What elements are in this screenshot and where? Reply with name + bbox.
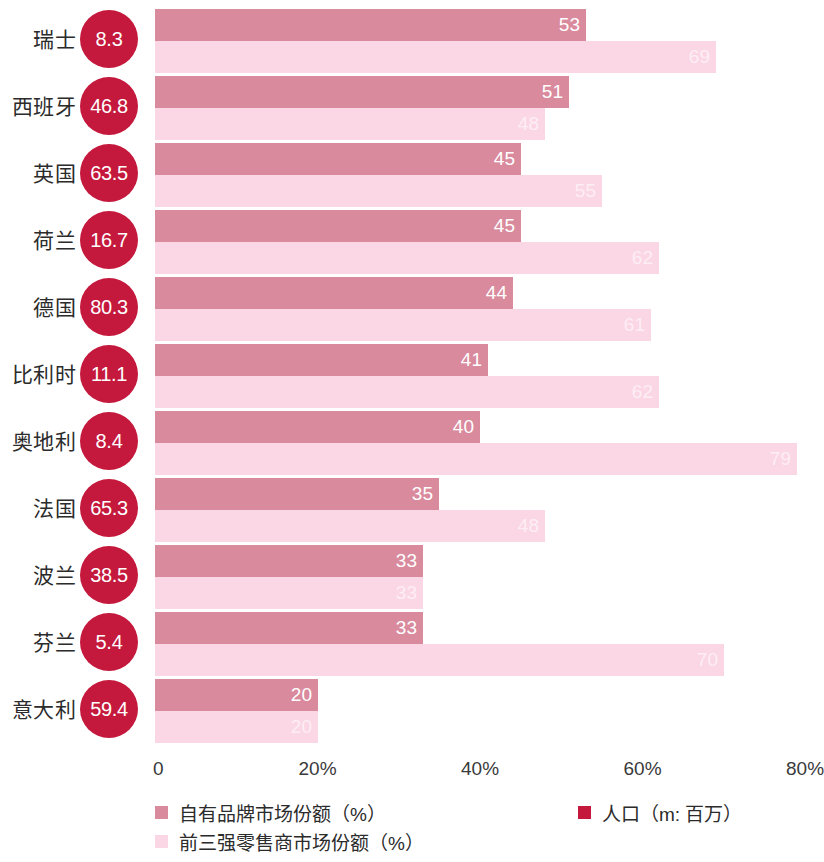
legend-label-top3-retailers: 前三强零售商市场份额（%） [179,833,424,854]
country-label: 瑞士 [0,6,76,73]
bar-value-label: 70 [697,644,718,676]
bar-group: 3333 [155,545,423,609]
population-bubble: 5.4 [80,613,138,671]
chart-legend: 自有品牌市场份额（%） 前三强零售商市场份额（%） 人口（m: 百万） [0,800,815,862]
bar-value-label: 79 [770,443,791,475]
country-label: 英国 [0,140,76,207]
bar-top3-retailers: 55 [155,175,602,207]
population-bubble: 8.4 [80,412,138,470]
axis-tick-label: 60% [624,758,662,780]
chart-plot-area: 瑞士8.35369西班牙46.85148英国63.54555荷兰16.74562… [0,0,815,756]
country-label: 法国 [0,475,76,542]
axis-tick-label: 0 [153,758,164,780]
legend-swatch-private-label-icon [155,806,168,819]
bar-group: 3548 [155,478,545,542]
chart-row: 波兰38.53333 [0,542,815,609]
population-bubble: 46.8 [80,77,138,135]
chart-row: 瑞士8.35369 [0,6,815,73]
population-bubble: 63.5 [80,144,138,202]
bar-private-label: 45 [155,210,521,242]
bar-private-label: 33 [155,612,423,644]
chart-row: 英国63.54555 [0,140,815,207]
chart-row: 西班牙46.85148 [0,73,815,140]
bar-private-label: 40 [155,411,480,443]
population-bubble: 8.3 [80,10,138,68]
population-bubble: 16.7 [80,211,138,269]
legend-item-private-label: 自有品牌市场份额（%） [155,800,386,827]
bar-private-label: 44 [155,277,513,309]
bar-value-label: 48 [518,510,539,542]
bar-top3-retailers: 48 [155,510,545,542]
bar-top3-retailers: 48 [155,108,545,140]
bar-value-label: 62 [632,242,653,274]
bar-value-label: 20 [291,679,312,711]
population-bubble: 65.3 [80,479,138,537]
bar-group: 3370 [155,612,724,676]
bar-group: 4562 [155,210,659,274]
bar-value-label: 41 [461,344,482,376]
bar-value-label: 33 [396,545,417,577]
chart-row: 德国80.34461 [0,274,815,341]
legend-swatch-population-icon [578,806,591,819]
bar-private-label: 33 [155,545,423,577]
bar-group: 5369 [155,9,716,73]
country-label: 荷兰 [0,207,76,274]
bar-value-label: 45 [494,143,515,175]
bar-group: 5148 [155,76,569,140]
chart-row: 奥地利8.44079 [0,408,815,475]
chart-row: 比利时11.14162 [0,341,815,408]
bar-value-label: 33 [396,577,417,609]
country-label: 波兰 [0,542,76,609]
population-bubble: 80.3 [80,278,138,336]
bar-value-label: 48 [518,108,539,140]
country-label: 西班牙 [0,73,76,140]
country-label: 意大利 [0,676,76,743]
country-label: 比利时 [0,341,76,408]
bar-value-label: 51 [542,76,563,108]
bar-top3-retailers: 69 [155,41,716,73]
bar-private-label: 53 [155,9,586,41]
bar-value-label: 20 [291,711,312,743]
bar-value-label: 55 [575,175,596,207]
bar-private-label: 35 [155,478,439,510]
chart-row: 意大利59.42020 [0,676,815,743]
bar-top3-retailers: 79 [155,443,797,475]
bar-group: 4461 [155,277,651,341]
axis-tick-label: 20% [299,758,337,780]
bar-private-label: 20 [155,679,318,711]
bar-top3-retailers: 20 [155,711,318,743]
bar-value-label: 45 [494,210,515,242]
bar-value-label: 44 [486,277,507,309]
bar-value-label: 61 [624,309,645,341]
chart-row: 荷兰16.74562 [0,207,815,274]
bar-group: 4162 [155,344,659,408]
country-label: 德国 [0,274,76,341]
bar-value-label: 35 [412,478,433,510]
legend-item-top3-retailers: 前三强零售商市场份额（%） [155,829,424,856]
legend-label-private-label: 自有品牌市场份额（%） [179,804,386,825]
legend-swatch-top3-retailers-icon [155,835,168,848]
country-label: 奥地利 [0,408,76,475]
bar-private-label: 45 [155,143,521,175]
bar-group: 4079 [155,411,797,475]
bar-top3-retailers: 62 [155,376,659,408]
population-bubble: 59.4 [80,680,138,738]
country-label: 芬兰 [0,609,76,676]
legend-label-population: 人口（m: 百万） [602,804,742,825]
bar-group: 4555 [155,143,602,207]
population-bubble: 38.5 [80,546,138,604]
bar-value-label: 53 [559,9,580,41]
x-axis: 020%40%60%80% [0,758,815,792]
bar-private-label: 41 [155,344,488,376]
bar-value-label: 40 [453,411,474,443]
bar-value-label: 62 [632,376,653,408]
bar-value-label: 33 [396,612,417,644]
chart-row: 芬兰5.43370 [0,609,815,676]
axis-tick-label: 40% [461,758,499,780]
bar-top3-retailers: 61 [155,309,651,341]
legend-item-population: 人口（m: 百万） [578,800,742,827]
bar-top3-retailers: 62 [155,242,659,274]
bar-top3-retailers: 33 [155,577,423,609]
axis-tick-label: 80% [786,758,824,780]
